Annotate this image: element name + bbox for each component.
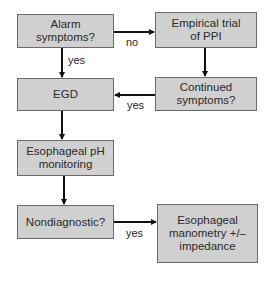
node-empirical-trial-ppi: Empirical trial of PPI (155, 12, 257, 48)
edge-label-yes-alarm: yes (68, 54, 85, 66)
node-egd: EGD (17, 78, 114, 111)
node-alarm-symptoms: Alarm symptoms? (17, 14, 114, 48)
edge-label-yes-nondiag: yes (126, 227, 143, 239)
node-esophageal-manometry: Esophageal manometry +/– impedance (157, 204, 258, 263)
node-continued-symptoms: Continued symptoms? (155, 77, 257, 111)
edge-label-no: no (126, 36, 138, 48)
node-esophageal-ph-monitoring: Esophageal pH monitoring (17, 140, 114, 176)
edge-label-yes-continued: yes (127, 99, 144, 111)
node-nondiagnostic: Nondiagnostic? (17, 205, 114, 239)
